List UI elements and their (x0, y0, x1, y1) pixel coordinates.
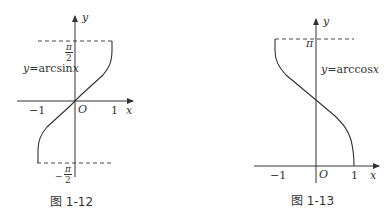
caption-fig-1-13: 图 1-13 (291, 191, 334, 208)
x-axis-label: x (370, 170, 376, 181)
caption-fig-1-12: 图 1-12 (50, 192, 93, 209)
x-tick-neg-1: −1 (29, 105, 45, 116)
y-tick-neg-pi-over-2: π 2 (64, 165, 72, 185)
y-tick-neg-sign: − (55, 172, 63, 181)
y-axis-label: y (323, 16, 329, 27)
x-axis-label: x (126, 105, 132, 116)
y-tick-pi-over-2: π 2 (65, 43, 73, 63)
x-tick-1: 1 (351, 170, 358, 181)
figure-arcsin (17, 16, 133, 177)
y-axis-label: y (82, 12, 88, 23)
y-tick-pi: π (306, 38, 313, 49)
x-tick-1: 1 (111, 105, 118, 116)
figure-arccos (254, 19, 379, 183)
arccos-curve (275, 39, 354, 166)
origin-label: O (78, 104, 87, 115)
function-label-arccos: y=arccosx (321, 64, 379, 75)
x-tick-neg-1: −1 (270, 170, 286, 181)
function-label-arcsin: y=arcsinx (23, 63, 79, 74)
origin-label: O (319, 169, 328, 180)
